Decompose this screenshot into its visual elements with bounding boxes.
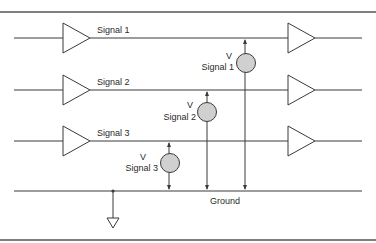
signal-1-line bbox=[14, 23, 362, 53]
voltmeter-2-symbol: V bbox=[187, 100, 193, 110]
meter-icon bbox=[161, 154, 180, 173]
meter-icon bbox=[198, 103, 217, 122]
buffer-icon bbox=[63, 75, 90, 105]
signal-3-label: Signal 3 bbox=[97, 128, 130, 138]
ground-label: Ground bbox=[210, 196, 240, 206]
buffer-icon bbox=[63, 23, 90, 53]
voltmeter-2-label: Signal 2 bbox=[163, 112, 196, 122]
voltmeter-signal-3 bbox=[161, 142, 180, 190]
voltmeter-signal-1 bbox=[237, 39, 256, 190]
ground-icon bbox=[107, 189, 119, 228]
voltmeter-3-symbol: V bbox=[140, 152, 146, 162]
buffer-icon bbox=[63, 126, 90, 156]
voltmeter-3-label: Signal 3 bbox=[125, 163, 158, 173]
signal-2-label: Signal 2 bbox=[97, 77, 130, 87]
meter-icon bbox=[237, 54, 256, 73]
buffer-icon bbox=[288, 126, 315, 156]
buffer-icon bbox=[288, 75, 315, 105]
voltmeter-1-label: Signal 1 bbox=[201, 62, 234, 72]
signal-1-label: Signal 1 bbox=[97, 25, 130, 35]
signal-3-line bbox=[14, 126, 362, 156]
signal-ground-diagram: Signal 1 Signal 2 Signal 3 Ground V Sign… bbox=[0, 0, 376, 243]
buffer-icon bbox=[288, 23, 315, 53]
voltmeter-1-symbol: V bbox=[226, 51, 232, 61]
